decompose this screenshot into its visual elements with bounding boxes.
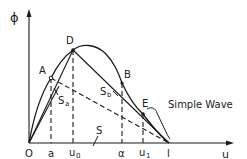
point-D xyxy=(71,48,75,52)
y-axis-arrow-icon xyxy=(27,9,32,17)
line-label-Sa-sub: a xyxy=(65,100,69,108)
chord-D-l xyxy=(73,50,169,143)
line-label-Sb: S xyxy=(100,86,106,97)
dashed-A-l xyxy=(51,78,169,143)
point-D-label: D xyxy=(66,35,74,46)
point-E-label: E xyxy=(142,98,148,109)
tick-label-u1-sub: 1 xyxy=(146,152,150,159)
point-A-label: A xyxy=(39,65,46,76)
tick-label-alpha: α xyxy=(118,148,125,159)
leader-S xyxy=(93,136,98,146)
origin-label: O xyxy=(25,148,33,159)
tick-label-u0: u xyxy=(69,147,75,158)
point-B-label: B xyxy=(124,69,131,80)
line-label-Sb-sub: b xyxy=(107,91,112,99)
x-axis-label: u xyxy=(222,148,229,159)
line-label-S: S xyxy=(96,125,102,136)
line-label-Sa: S xyxy=(58,95,64,106)
tick-label-u1: u xyxy=(139,147,145,158)
point-E xyxy=(141,112,145,116)
tick-label-u0-sub: 0 xyxy=(76,152,80,159)
point-B xyxy=(120,81,123,84)
simple-wave-label: Simple Wave xyxy=(168,99,233,110)
tick-label-l: l xyxy=(167,148,170,159)
tick-label-a: a xyxy=(48,148,54,159)
flux-function-diagram: ϕ u O A D B E a u 0 α u 1 l S a S b S Si… xyxy=(0,0,247,159)
y-axis-label: ϕ xyxy=(10,10,19,25)
point-A xyxy=(49,76,53,80)
chord-O-E xyxy=(29,86,59,143)
x-axis-arrow-icon xyxy=(226,141,234,146)
